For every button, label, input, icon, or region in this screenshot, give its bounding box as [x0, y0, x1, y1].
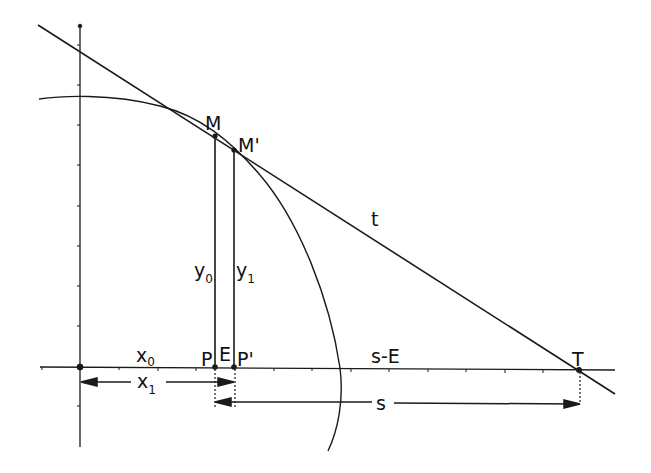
label-T: T	[571, 348, 584, 370]
dimension-s	[215, 398, 580, 408]
label-x0: x0	[136, 344, 155, 369]
label-y0: y0	[194, 259, 213, 286]
x-axis	[40, 367, 615, 370]
label-P-prime: P'	[237, 348, 254, 370]
label-P: P	[201, 348, 212, 370]
tangent-construction-diagram: M M' t y0 y1 x0 x1 P E P' s-E T s	[0, 0, 651, 473]
label-s-minus-E: s-E	[371, 345, 400, 367]
label-x1: x1	[137, 370, 156, 397]
label-y1: y1	[236, 259, 255, 286]
origin-dot	[77, 364, 83, 370]
tangent-line-t	[38, 25, 615, 394]
curve-arc	[39, 96, 341, 451]
label-E: E	[219, 343, 231, 365]
point-P-prime	[231, 364, 237, 370]
point-M-prime	[231, 147, 236, 152]
label-M: M	[205, 112, 221, 134]
label-M-prime: M'	[238, 134, 260, 156]
dimension-x1	[81, 378, 234, 386]
label-s: s	[376, 392, 386, 414]
point-M	[212, 133, 217, 138]
axes	[40, 24, 615, 447]
label-t: t	[371, 208, 378, 230]
point-P	[212, 364, 218, 370]
y-axis-top-dot	[78, 24, 82, 28]
